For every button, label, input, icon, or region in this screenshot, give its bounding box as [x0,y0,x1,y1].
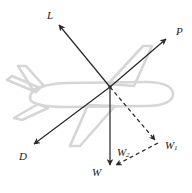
airplane-far-wing [70,105,115,146]
vector-L [59,25,110,87]
vector-W1 [110,87,155,140]
figure-canvas: L P D W W 1 W 2 [0,0,192,193]
force-diagram-figure: L P D W W 1 W 2 [0,0,192,193]
airplane-stabilizer-lower [14,104,48,120]
label-weight-component-1: W 1 [165,139,178,152]
label-weight: W [92,166,102,178]
origin-point [108,85,111,88]
airplane-main-wing [108,46,152,86]
label-weight-component-2-subscript: 2 [126,151,130,159]
label-weight-component-1-subscript: 1 [174,144,178,152]
vector-labels: L P D W W 1 W 2 [18,9,183,178]
label-lift: L [46,9,53,21]
airplane-fuselage [30,82,173,107]
label-thrust: P [175,25,183,37]
label-drag: D [18,150,27,162]
label-weight-component-2: W 2 [117,146,130,159]
vector-D [34,87,110,144]
